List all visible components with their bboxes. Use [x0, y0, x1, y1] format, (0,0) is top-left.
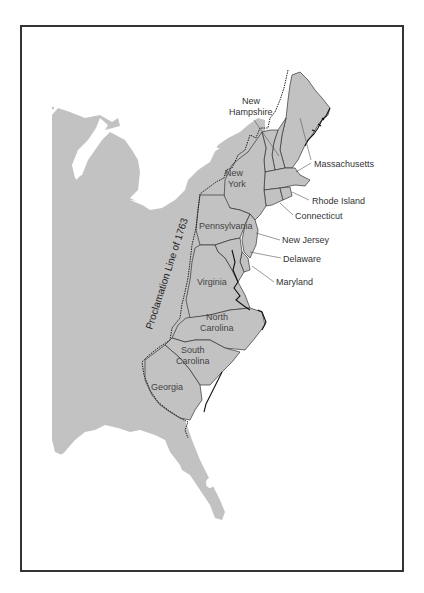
label-new-york-2: York [228, 179, 246, 189]
label-new-hampshire-1: New [242, 96, 261, 106]
label-new-hampshire-2: Hampshire [229, 107, 273, 117]
label-new-york-1: New [225, 168, 244, 178]
label-connecticut: Connecticut [295, 211, 343, 221]
map-canvas: Proclamation Line of 1763 New York Penns… [0, 0, 424, 593]
colony-massachusetts [264, 168, 310, 190]
label-virginia: Virginia [197, 277, 227, 287]
label-rhode-island: Rhode Island [312, 196, 365, 206]
label-massachusetts: Massachusetts [314, 159, 375, 169]
leader-connecticut [280, 203, 293, 215]
leader-delaware [250, 252, 281, 258]
label-pennsylvania: Pennsylvania [199, 221, 253, 231]
label-south-carolina-2: Carolina [176, 356, 210, 366]
label-north-carolina-2: Carolina [200, 323, 234, 333]
leader-maryland [252, 266, 274, 282]
lake-okeechobee [206, 478, 214, 488]
label-delaware: Delaware [283, 254, 321, 264]
island [52, 107, 54, 109]
label-north-carolina-1: North [206, 312, 228, 322]
leader-new-jersey [256, 233, 280, 240]
leader-rhode-island [292, 192, 309, 200]
label-new-jersey: New Jersey [282, 235, 330, 245]
label-georgia: Georgia [151, 382, 183, 392]
label-south-carolina-1: South [181, 345, 205, 355]
label-maryland: Maryland [276, 277, 313, 287]
leader-massachusetts [296, 163, 311, 172]
